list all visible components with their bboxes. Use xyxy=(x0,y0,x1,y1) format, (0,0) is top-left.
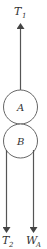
body-a: A xyxy=(4,90,38,124)
force-label-wa: W A xyxy=(26,234,41,249)
svg-text:2: 2 xyxy=(8,241,14,249)
free-body-diagram: T 1 A B T 2 W A xyxy=(0,0,47,249)
svg-text:1: 1 xyxy=(22,12,26,20)
force-label-t2: T 2 xyxy=(2,234,14,249)
svg-text:B: B xyxy=(16,136,24,147)
body-b: B xyxy=(4,124,38,158)
force-label-t1: T 1 xyxy=(14,5,26,20)
svg-text:A: A xyxy=(35,241,41,249)
svg-text:A: A xyxy=(16,102,24,113)
